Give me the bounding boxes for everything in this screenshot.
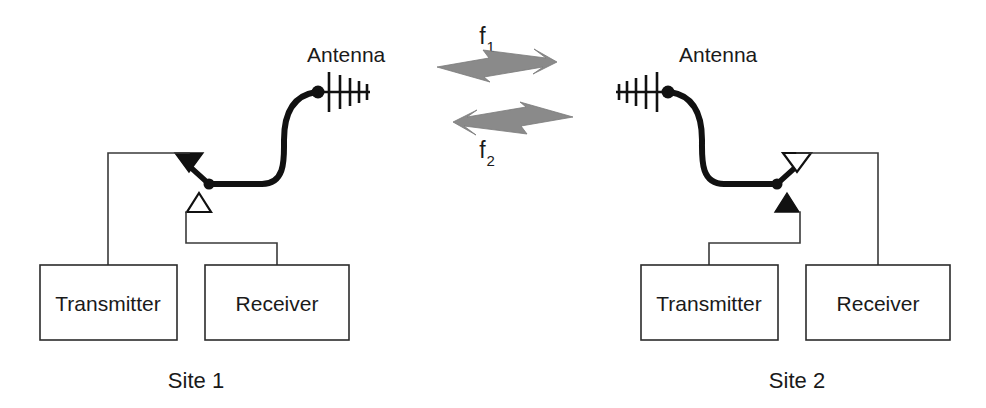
site-2-antenna-icon [616,72,675,112]
site-2-switch-pivot [772,179,783,190]
site-2-contact-transmit-filled[interactable] [775,193,799,212]
site-1-group: Antenna [40,43,386,393]
site-2-receiver-label: Receiver [837,292,920,315]
site-1-contact-transmit-filled[interactable] [175,153,203,172]
site-1-transmitter-wire [108,153,189,265]
link-f2-base: f [479,137,486,163]
site-1-transmitter-label: Transmitter [55,292,160,315]
site-1-antenna-label: Antenna [307,43,386,66]
link-f1-bolt-arrow-right-icon [437,49,557,82]
link-f1-base: f [479,23,486,49]
site-2-transmitter-label: Transmitter [656,292,761,315]
site-2-contact-receive-open[interactable] [783,153,811,172]
site-1-label: Site 1 [168,368,224,393]
site-1-receiver-label: Receiver [236,292,319,315]
site-2-label: Site 2 [769,368,825,393]
site-2-transmitter-wire [709,212,800,265]
link-f2-bolt-arrow-left-icon [453,102,573,135]
site-2-feed-cable [670,92,777,184]
site-2-receiver-wire [797,153,878,265]
site-2-antenna-label: Antenna [679,43,758,66]
radio-link-diagram: Antenna [0,0,986,408]
site-2-group: Antenna [616,43,950,393]
site-1-contact-receive-open[interactable] [187,193,211,212]
site-1-receiver-wire [186,212,277,265]
link-f2-label: f2 [479,137,495,169]
rf-links-group: f1 f2 [437,23,573,169]
site-1-antenna-icon [312,72,371,112]
site-1-feed-cable [209,92,316,184]
diagram-canvas: Antenna [0,0,986,408]
link-f2-subscript: 2 [487,152,495,169]
site-1-switch-pivot [204,179,215,190]
